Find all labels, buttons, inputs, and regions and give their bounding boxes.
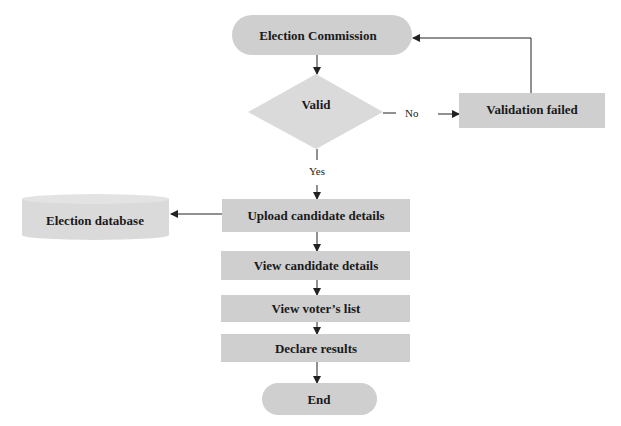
node-upload-label: Upload candidate details bbox=[247, 208, 384, 223]
edge-failed-to-commission bbox=[413, 38, 531, 93]
node-valid-decision: Valid bbox=[248, 74, 383, 149]
node-view-voters-list: View voter’s list bbox=[221, 295, 410, 322]
edge-yes-label: Yes bbox=[309, 165, 325, 177]
node-view-candidate-details: View candidate details bbox=[221, 251, 410, 280]
node-view-voters-label: View voter’s list bbox=[272, 301, 361, 316]
node-upload-candidate-details: Upload candidate details bbox=[222, 199, 410, 232]
node-election-commission-label: Election Commission bbox=[259, 28, 377, 43]
node-declare-label: Declare results bbox=[275, 341, 357, 356]
node-declare-results: Declare results bbox=[221, 334, 410, 362]
node-valid-label: Valid bbox=[301, 97, 331, 112]
node-view-candidate-label: View candidate details bbox=[254, 258, 378, 273]
node-validation-failed: Validation failed bbox=[459, 93, 605, 128]
node-database-label: Election database bbox=[46, 213, 144, 228]
node-validation-failed-label: Validation failed bbox=[486, 102, 578, 117]
node-election-commission: Election Commission bbox=[232, 15, 412, 55]
node-end-label: End bbox=[307, 392, 331, 407]
flowchart: Election Commission Valid No Validation … bbox=[0, 0, 621, 426]
edge-no-label: No bbox=[405, 107, 419, 119]
node-end: End bbox=[262, 383, 377, 415]
node-election-database: Election database bbox=[22, 194, 169, 240]
